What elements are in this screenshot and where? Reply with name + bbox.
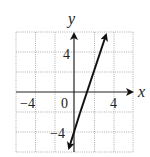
tick-label: 4 — [63, 47, 70, 62]
tick-label: −4 — [50, 126, 65, 141]
x-axis-label: x — [137, 83, 145, 100]
coordinate-plane: y x 4 −4 0 4 −4 — [0, 0, 150, 157]
y-axis-label: y — [66, 10, 76, 28]
graph-line — [80, 35, 106, 113]
tick-label: 4 — [110, 96, 117, 111]
tick-label: −4 — [20, 96, 35, 111]
tick-label: 0 — [61, 96, 68, 111]
